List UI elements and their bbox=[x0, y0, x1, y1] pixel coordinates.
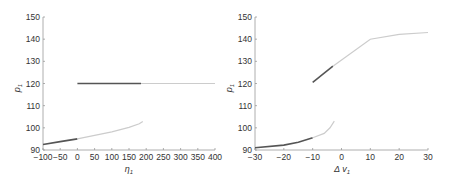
y-tick-label: 150 bbox=[26, 12, 40, 22]
x-tick-label: 100 bbox=[105, 152, 119, 162]
series-lower-light bbox=[313, 121, 335, 138]
x-tick-label: 10 bbox=[366, 152, 376, 162]
x-tick-label: 0 bbox=[339, 152, 344, 162]
left-y-label: p1 bbox=[12, 84, 23, 93]
y-tick-label: 140 bbox=[26, 34, 40, 44]
series-upper-dark bbox=[313, 66, 333, 82]
left-y-ticks: 90100110120130140150 bbox=[26, 12, 45, 155]
x-tick-label: 150 bbox=[122, 152, 136, 162]
right-series bbox=[255, 33, 428, 148]
series-lower-dark bbox=[43, 139, 77, 145]
x-tick-label: 300 bbox=[174, 152, 188, 162]
x-tick-label: 30 bbox=[423, 152, 433, 162]
x-tick-label: 350 bbox=[191, 152, 205, 162]
x-tick-label: 200 bbox=[139, 152, 153, 162]
right-y-ticks: 90100110120130140150 bbox=[238, 12, 257, 155]
y-tick-label: 120 bbox=[26, 79, 40, 89]
series-lower-light bbox=[77, 122, 142, 139]
y-tick-label: 130 bbox=[238, 56, 252, 66]
series-lower-dark bbox=[255, 138, 313, 148]
x-tick-label: 20 bbox=[394, 152, 404, 162]
left-series bbox=[43, 84, 215, 145]
y-tick-label: 150 bbox=[238, 12, 252, 22]
right-y-label: p1 bbox=[224, 84, 235, 93]
x-tick-label: −50 bbox=[53, 152, 68, 162]
x-tick-label: 50 bbox=[90, 152, 100, 162]
x-tick-label: −10 bbox=[305, 152, 320, 162]
x-tick-label: 0 bbox=[75, 152, 80, 162]
y-tick-label: 130 bbox=[26, 56, 40, 66]
series-upper-light bbox=[333, 33, 428, 67]
y-tick-label: 110 bbox=[26, 101, 40, 111]
right-x-label: Δ v1 bbox=[333, 164, 350, 175]
x-tick-label: 400 bbox=[208, 152, 222, 162]
y-tick-label: 110 bbox=[238, 101, 252, 111]
y-tick-label: 120 bbox=[238, 79, 252, 89]
y-tick-label: 100 bbox=[238, 123, 252, 133]
y-tick-label: 100 bbox=[26, 123, 40, 133]
figure: 90100110120130140150 −100−50050100150200… bbox=[0, 0, 449, 183]
y-tick-label: 140 bbox=[238, 34, 252, 44]
right-plot: 90100110120130140150 −30−20−100102030 p1… bbox=[224, 12, 433, 175]
left-x-label: η1 bbox=[125, 164, 133, 175]
x-tick-label: −20 bbox=[277, 152, 292, 162]
x-tick-label: −30 bbox=[248, 152, 263, 162]
x-tick-label: −100 bbox=[33, 152, 52, 162]
left-plot: 90100110120130140150 −100−50050100150200… bbox=[12, 12, 222, 175]
x-tick-label: 250 bbox=[156, 152, 170, 162]
